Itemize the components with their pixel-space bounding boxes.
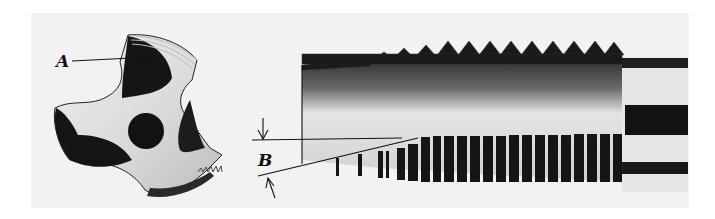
label-a: A (54, 51, 69, 71)
flute-right (178, 100, 205, 152)
arrow-bottom-shaft (268, 178, 275, 198)
shank-end-lower (622, 162, 688, 174)
center-hole (128, 113, 164, 149)
shank-end-top (622, 58, 688, 68)
shank-end-square (625, 105, 688, 135)
label-b: B (257, 150, 272, 170)
tap-end-view (54, 35, 222, 197)
tap-side-view (302, 41, 688, 192)
tap-illustration: A (0, 0, 715, 219)
